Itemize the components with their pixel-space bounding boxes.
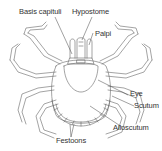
label-hypostome: Hypostome (72, 8, 109, 16)
festoon-dividers (54, 108, 108, 126)
scutum-outline (64, 63, 98, 92)
label-palpi: Palpi (95, 30, 111, 38)
label-scutum: Scutum (134, 102, 159, 110)
palpi-shape (70, 39, 75, 58)
left-legs (10, 22, 62, 138)
hypostome-shape (77, 38, 85, 58)
label-basis-capituli: Basis capituli (19, 8, 61, 16)
label-alloscutum: Alloscutum (113, 124, 149, 132)
label-eye: Eye (130, 90, 143, 98)
label-festoons: Festoons (56, 137, 86, 145)
right-legs (100, 22, 152, 138)
